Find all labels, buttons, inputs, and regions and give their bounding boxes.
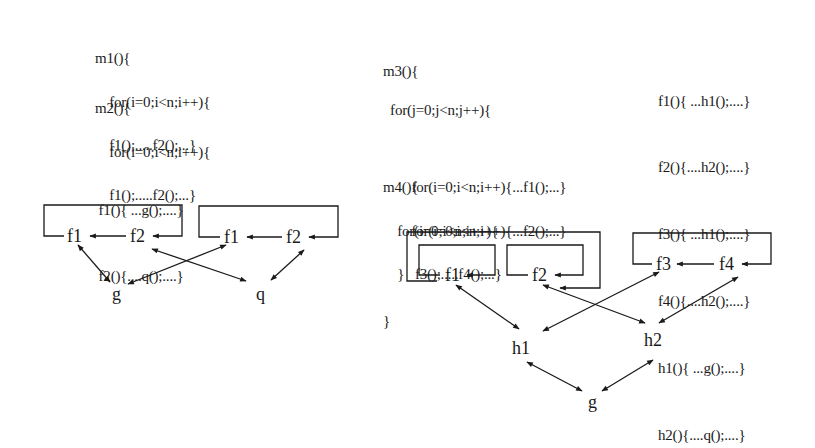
edge-h1-g	[527, 362, 582, 391]
node-g-right: g	[588, 393, 597, 411]
loop-edge-b	[199, 206, 338, 237]
edge-a-f2-q	[152, 249, 246, 281]
loop-f3-f4	[633, 233, 771, 264]
node-f3: f3	[656, 255, 671, 273]
node-g-left: g	[112, 285, 121, 303]
node-q: q	[256, 285, 265, 303]
edge-f1-h1	[456, 285, 519, 329]
node-f1: f1	[445, 266, 460, 284]
edge-b-f2-q	[271, 250, 304, 280]
node-b-f1: f1	[224, 228, 239, 246]
node-a-f1: f1	[67, 227, 82, 245]
node-a-f2: f2	[130, 227, 145, 245]
edge-f2-h2	[543, 285, 645, 323]
edge-h2-g	[602, 360, 653, 391]
edge-a-f1-g	[78, 245, 110, 282]
node-f4: f4	[719, 255, 734, 273]
node-b-f2: f2	[286, 228, 301, 246]
edge-f4-h2	[659, 277, 738, 323]
node-h2: h2	[644, 331, 662, 349]
loop-edge-a	[44, 205, 182, 236]
outer-loop-edge	[407, 232, 600, 288]
node-h1: h1	[512, 339, 530, 357]
edge-b-f1-g	[128, 245, 226, 284]
node-f2: f2	[532, 266, 547, 284]
